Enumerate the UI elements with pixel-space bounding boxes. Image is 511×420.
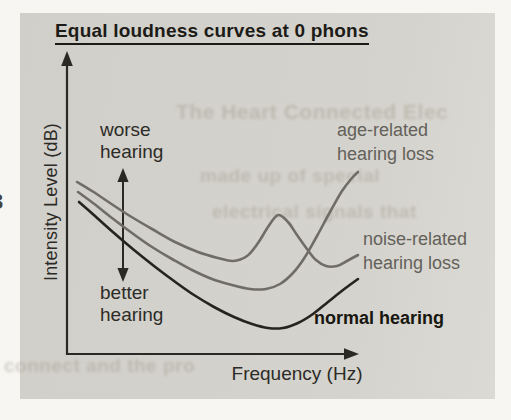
chart-canvas [0, 0, 511, 420]
worse-hearing-annotation: worse hearing [100, 119, 163, 163]
normal-hearing-label-line1: normal hearing [314, 306, 444, 330]
noise-related-label-line2: hearing loss [363, 251, 467, 275]
x-axis-label: Frequency (Hz) [212, 363, 382, 385]
x-axis-arrowhead-icon [344, 348, 359, 360]
up-arrowhead-icon [117, 168, 128, 182]
down-arrowhead-icon [117, 268, 128, 282]
age-related-label-line2: hearing loss [337, 142, 434, 166]
scanned-page: The Heart Connected Elecmade up of speci… [0, 0, 511, 420]
y-axis-arrowhead-icon [61, 51, 73, 66]
noise-related-label-line1: noise-related [363, 227, 467, 251]
normal-hearing-curve-label: normal hearing [314, 306, 444, 330]
age-related-label-line1: age-related [337, 118, 434, 142]
worse-hearing-line1: worse [100, 119, 163, 141]
noise-related-curve-label: noise-related hearing loss [363, 227, 467, 275]
worse-hearing-line2: hearing [100, 141, 163, 163]
better-hearing-line1: better [100, 282, 163, 304]
age-related-curve-label: age-related hearing loss [337, 118, 434, 166]
y-axis-label: Intensity Level (dB) [41, 123, 62, 281]
better-hearing-annotation: better hearing [100, 282, 163, 326]
better-hearing-line2: hearing [100, 304, 163, 326]
